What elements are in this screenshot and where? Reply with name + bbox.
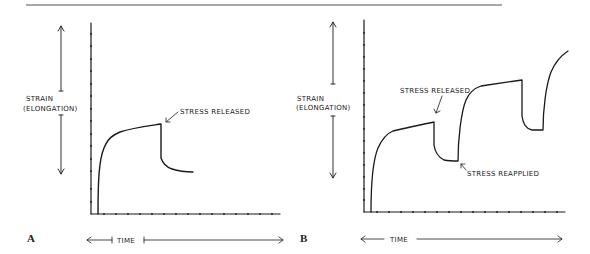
annotation-stress-reapplied-b: STRESS REAPPLIED bbox=[467, 170, 539, 178]
figure-canvas: STRAIN (ELONGATION) STRESS RELEASED A TI… bbox=[0, 0, 590, 254]
x-axis-label-b: TIME bbox=[389, 236, 408, 244]
strain-arrow-a bbox=[58, 26, 64, 174]
annotation-arrow-reapplied-b bbox=[461, 164, 466, 170]
panel-a: STRAIN (ELONGATION) STRESS RELEASED A TI… bbox=[23, 23, 283, 245]
y-axis-label-b-line2: (ELONGATION) bbox=[296, 104, 351, 112]
y-axis-label-a-line2: (ELONGATION) bbox=[23, 105, 78, 113]
annotation-stress-released-b: STRESS RELEASED bbox=[400, 87, 470, 95]
strain-curve-a bbox=[98, 124, 193, 214]
panel-letter-a: A bbox=[27, 232, 35, 244]
y-axis-label-a-line1: STRAIN bbox=[26, 95, 53, 103]
annotation-arrow-a bbox=[166, 112, 178, 122]
annotation-stress-released-a: STRESS RELEASED bbox=[180, 108, 250, 116]
x-ticks-a bbox=[103, 213, 273, 215]
strain-arrow-b bbox=[330, 22, 336, 178]
panel-b: STRAIN (ELONGATION) STRESS RELEASED STRE… bbox=[296, 20, 568, 244]
strain-curve-b bbox=[371, 51, 568, 212]
x-axis-label-a: TIME bbox=[116, 237, 135, 245]
annotation-arrow-released-b bbox=[434, 96, 442, 113]
panel-letter-b: B bbox=[300, 232, 308, 244]
y-axis-label-b-line1: STRAIN bbox=[297, 95, 324, 103]
